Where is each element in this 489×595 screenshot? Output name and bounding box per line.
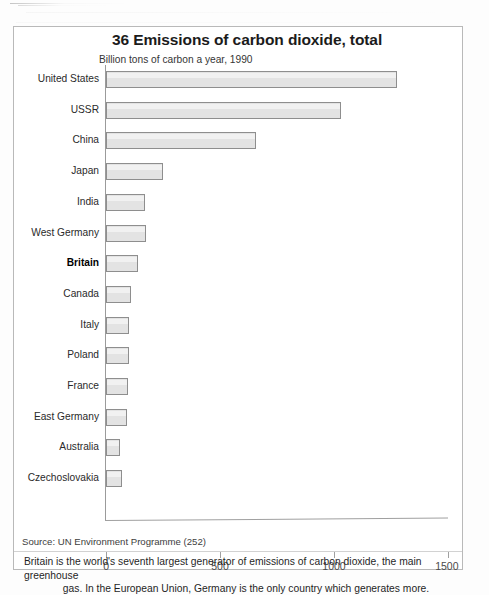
footnote-line-1: Britain is the world's seventh largest g… bbox=[24, 555, 454, 582]
bar bbox=[106, 225, 146, 242]
bar bbox=[106, 317, 129, 334]
bar-row: East Germany bbox=[14, 404, 464, 435]
bar-row: Canada bbox=[14, 281, 464, 312]
bar-row: Czechoslovakia bbox=[14, 465, 464, 496]
footer-divider bbox=[14, 551, 462, 552]
x-axis-line bbox=[105, 517, 448, 521]
scan-artifact bbox=[10, 3, 130, 4]
footnote: Britain is the world's seventh largest g… bbox=[24, 555, 454, 595]
figure-page: 36 Emissions of carbon dioxide, total Bi… bbox=[0, 0, 489, 595]
bar-category-label: East Germany bbox=[0, 411, 99, 422]
bar-category-label: Japan bbox=[0, 165, 99, 176]
bar-row: India bbox=[14, 189, 464, 220]
bar-category-label: USSR bbox=[0, 104, 99, 115]
bar-row: Japan bbox=[14, 158, 464, 189]
bar bbox=[106, 71, 397, 88]
bar-row: USSR bbox=[14, 97, 464, 128]
bar-category-label: Britain bbox=[0, 257, 99, 268]
footnote-line-2: gas. In the European Union, Germany is t… bbox=[24, 582, 454, 595]
bar-row: West Germany bbox=[14, 220, 464, 251]
bar bbox=[106, 470, 122, 487]
bar bbox=[106, 194, 145, 211]
bar-category-label: Poland bbox=[0, 349, 99, 360]
bar-category-label: Italy bbox=[0, 319, 99, 330]
bar-category-label: Australia bbox=[0, 441, 99, 452]
bar bbox=[106, 163, 163, 180]
bar-category-label: Czechoslovakia bbox=[0, 472, 99, 483]
bar bbox=[106, 132, 256, 149]
chart-subtitle: Billion tons of carbon a year, 1990 bbox=[99, 54, 252, 65]
bar-row: France bbox=[14, 373, 464, 404]
bar bbox=[106, 255, 138, 272]
scan-artifact bbox=[16, 22, 456, 23]
scan-artifact bbox=[18, 5, 114, 6]
bar-category-label: Canada bbox=[0, 288, 99, 299]
bar-category-label: France bbox=[0, 380, 99, 391]
bar-row: United States bbox=[14, 66, 464, 97]
bar bbox=[106, 347, 129, 364]
scan-artifact bbox=[26, 12, 446, 13]
bar-row: Poland bbox=[14, 342, 464, 373]
bar bbox=[106, 286, 131, 303]
bar-category-label: United States bbox=[0, 73, 99, 84]
bar-category-label: West Germany bbox=[0, 227, 99, 238]
bar-category-label: China bbox=[0, 134, 99, 145]
bar bbox=[106, 409, 127, 426]
bar bbox=[106, 378, 128, 395]
figure-frame: 36 Emissions of carbon dioxide, total Bi… bbox=[13, 26, 463, 570]
bar bbox=[106, 102, 341, 119]
source-note: Source: UN Environment Programme (252) bbox=[22, 536, 206, 547]
bar-category-label: India bbox=[0, 196, 99, 207]
bar bbox=[106, 439, 120, 456]
bar-row: Australia bbox=[14, 434, 464, 465]
bar-row: Britain bbox=[14, 250, 464, 281]
chart-title: 36 Emissions of carbon dioxide, total bbox=[14, 31, 462, 49]
plot-area: United StatesUSSRChinaJapanIndiaWest Ger… bbox=[14, 65, 464, 530]
bar-row: Italy bbox=[14, 312, 464, 343]
bar-row: China bbox=[14, 127, 464, 158]
